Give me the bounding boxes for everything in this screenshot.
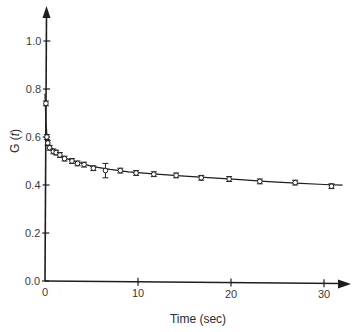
x-tick-label: 10: [132, 287, 144, 299]
y-tick-label: 0.8: [26, 83, 41, 95]
y-tick-label: 1.0: [26, 35, 41, 47]
x-axis-title: Time (sec): [170, 312, 226, 326]
data-point: [292, 180, 298, 185]
chart: 01020300.00.20.40.60.81.0 Time (sec) G (…: [0, 0, 360, 332]
x-axis: [45, 281, 340, 284]
data-point: [257, 179, 263, 184]
y-axis-title-prefix: G (: [8, 136, 22, 153]
data-point: [81, 162, 87, 167]
data-point: [198, 175, 204, 180]
y-axis: [45, 14, 47, 281]
data-points: [43, 101, 335, 189]
axes: 01020300.00.20.40.60.81.0: [25, 6, 351, 300]
data-point: [133, 171, 139, 176]
y-tick-label: 0.0: [25, 275, 40, 287]
data-point: [62, 156, 68, 161]
y-tick-label: 0.6: [26, 131, 41, 143]
y-axis-arrow-icon: [43, 6, 51, 18]
data-point: [43, 101, 49, 106]
y-axis-title-suffix: ): [8, 129, 22, 133]
data-point: [45, 141, 51, 146]
data-point: [69, 159, 75, 164]
y-axis-title: G (t): [8, 129, 22, 153]
fit-curve: [45, 94, 343, 185]
data-point: [226, 177, 232, 182]
x-axis-arrow-icon: [338, 280, 351, 289]
data-point: [44, 135, 50, 140]
x-tick-label: 0: [42, 286, 48, 298]
data-point: [117, 168, 123, 173]
data-point: [75, 161, 81, 166]
data-point: [90, 166, 96, 171]
x-tick-label: 20: [225, 288, 237, 300]
data-point: [151, 172, 157, 177]
y-tick-label: 0.2: [25, 227, 40, 239]
data-point: [102, 163, 108, 177]
y-tick-label: 0.4: [25, 179, 40, 191]
x-tick-label: 30: [318, 288, 330, 300]
data-point: [173, 173, 179, 178]
data-point: [328, 184, 334, 189]
